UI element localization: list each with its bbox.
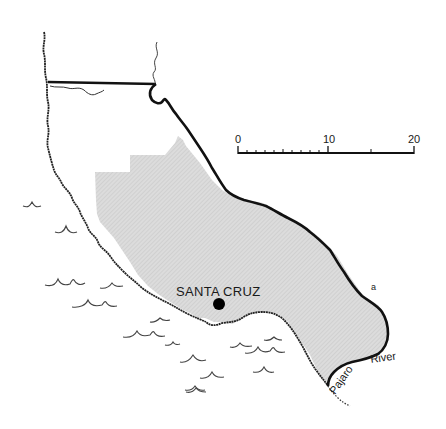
north-county-line bbox=[48, 82, 156, 84]
scale-label-0: 0 bbox=[235, 133, 241, 145]
wave-icon bbox=[180, 355, 206, 362]
scale-bar: 0 10 20 bbox=[235, 133, 420, 154]
wave-icon bbox=[264, 337, 282, 340]
wave-icon bbox=[45, 279, 85, 286]
north-stream bbox=[50, 86, 104, 95]
map-container: 0 10 20 SANTA CRUZ a Pajaro River bbox=[0, 0, 446, 429]
river-label-river: River bbox=[370, 349, 397, 365]
wave-icon bbox=[72, 300, 117, 307]
wave-icon bbox=[253, 367, 274, 372]
wave-icon bbox=[150, 318, 170, 322]
wave-icon bbox=[23, 202, 41, 207]
wave-icon bbox=[55, 226, 77, 233]
wave-icon bbox=[165, 342, 180, 345]
wave-icon bbox=[123, 331, 165, 337]
wave-icon bbox=[100, 283, 123, 288]
wave-icon bbox=[245, 347, 285, 353]
scale-label-20: 20 bbox=[408, 133, 420, 145]
city-label: SANTA CRUZ bbox=[176, 284, 260, 299]
wave-icon bbox=[230, 343, 252, 347]
scale-label-10: 10 bbox=[323, 133, 335, 145]
north-creek bbox=[153, 42, 157, 84]
wave-icon bbox=[200, 372, 224, 378]
santa-cruz-marker bbox=[213, 298, 225, 310]
feature-label-a: a bbox=[371, 282, 376, 292]
map-svg: 0 10 20 SANTA CRUZ a Pajaro River bbox=[0, 0, 446, 429]
